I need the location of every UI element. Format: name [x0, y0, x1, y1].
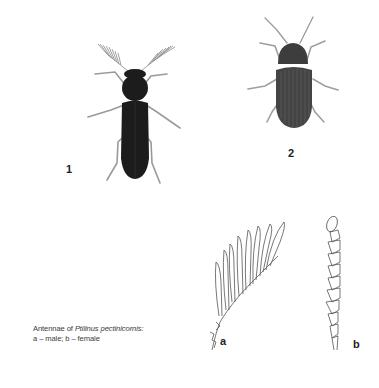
antenna-b-drawing: [322, 216, 356, 352]
antenna-a-lamellae: [215, 222, 284, 316]
figure-1-label: 1: [66, 164, 72, 175]
beetle-1-illustration: [85, 38, 185, 188]
antenna-a-label: a: [220, 336, 226, 347]
figure-2-label: 2: [288, 148, 294, 159]
beetle-2-antennae: [265, 17, 313, 43]
caption-line-2: a – male; b – female: [33, 334, 143, 344]
antenna-b-label: b: [353, 339, 360, 350]
beetle-1-antennae: [98, 44, 175, 71]
beetle-2-body: [276, 43, 312, 128]
beetle-2-illustration: [245, 12, 345, 134]
caption-species: Ptilinus pectinicornis:: [75, 324, 144, 333]
beetle-2-drawing: [245, 12, 345, 134]
antenna-b-female-illustration: [322, 216, 356, 352]
beetle-1-drawing: [85, 38, 185, 188]
caption-line-1: Antennae of Ptilinus pectinicornis:: [33, 324, 143, 334]
antenna-a-male-illustration: [202, 222, 292, 350]
caption-prefix: Antennae of: [33, 324, 75, 333]
figure-caption: Antennae of Ptilinus pectinicornis: a – …: [33, 324, 143, 343]
antenna-a-drawing: [202, 222, 292, 350]
